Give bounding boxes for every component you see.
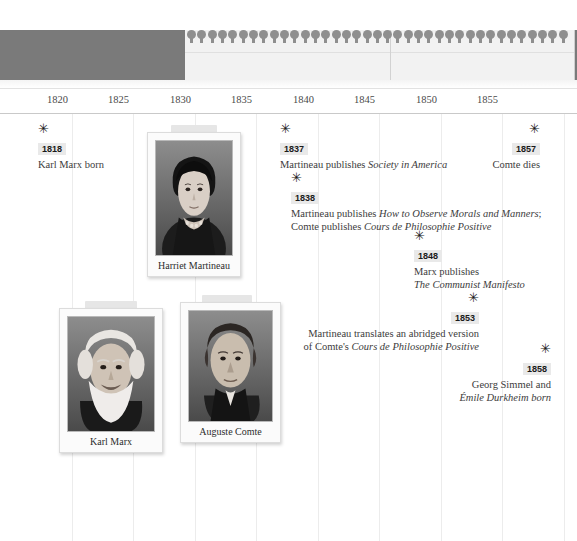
auguste-comte-portrait [188, 310, 273, 422]
event-description: Georg Simmel and [459, 378, 551, 391]
star-asterisk-icon[interactable]: ✳ [304, 291, 479, 304]
map-pin-marker-icon[interactable] [208, 30, 217, 43]
map-pin-marker-icon[interactable] [197, 30, 206, 43]
map-pin-marker-icon[interactable] [414, 30, 423, 43]
event-year-badge: 1837 [280, 143, 308, 155]
karl-marx-portrait [67, 316, 155, 432]
photo-card-body[interactable]: Karl Marx [59, 308, 163, 453]
photo-card-caption: Auguste Comte [188, 422, 273, 442]
map-pin-marker-icon[interactable] [559, 30, 568, 43]
event-year-badge: 1858 [523, 363, 551, 375]
star-asterisk-icon[interactable]: ✳ [492, 122, 540, 135]
gridline [564, 114, 565, 541]
photo-card-caption: Harriet Martineau [155, 256, 233, 276]
axis-tick-label: 1840 [293, 94, 314, 105]
timeline-canvas[interactable]: ✳1818Karl Marx born✳1837Martineau publis… [0, 114, 577, 541]
map-pin-marker-icon[interactable] [466, 30, 475, 43]
event-description: Martineau publishes How to Observe Moral… [291, 207, 542, 220]
event-title-italic: Society in America [368, 159, 447, 170]
map-pin-marker-icon[interactable] [424, 30, 433, 43]
map-pin-marker-icon[interactable] [239, 30, 248, 43]
map-pin-marker-icon[interactable] [301, 30, 310, 43]
map-pin-marker-icon[interactable] [455, 30, 464, 43]
map-pin-marker-icon[interactable] [538, 30, 547, 43]
harriet-martineau-portrait [155, 140, 233, 256]
map-pin-marker-icon[interactable] [548, 30, 557, 43]
event-title-italic: Émile Durkheim born [459, 392, 551, 403]
overview-pin-row [185, 30, 574, 44]
star-asterisk-icon[interactable]: ✳ [459, 342, 551, 355]
axis-tick-label: 1825 [108, 94, 129, 105]
overview-viewport-divider [185, 52, 574, 53]
map-pin-marker-icon[interactable] [517, 30, 526, 43]
axis-tick-label: 1820 [47, 94, 68, 105]
photo-card-body[interactable]: Auguste Comte [180, 302, 281, 443]
axis-tick-label: 1855 [477, 94, 498, 105]
map-pin-marker-icon[interactable] [280, 30, 289, 43]
map-pin-marker-icon[interactable] [342, 30, 351, 43]
overview-viewport-window[interactable] [185, 30, 575, 80]
timeline-event[interactable]: ✳1858Georg Simmel andÉmile Durkheim born [459, 342, 551, 404]
map-pin-marker-icon[interactable] [259, 30, 268, 43]
event-text: Martineau publishes [291, 208, 379, 219]
photo-card-caption: Karl Marx [67, 432, 155, 452]
photo-card-body[interactable]: Harriet Martineau [147, 132, 241, 277]
event-description: Martineau translates an abridged version [304, 327, 479, 340]
star-asterisk-icon[interactable]: ✳ [38, 122, 104, 135]
map-pin-marker-icon[interactable] [228, 30, 237, 43]
map-pin-marker-icon[interactable] [435, 30, 444, 43]
map-pin-marker-icon[interactable] [249, 30, 258, 43]
event-description: Émile Durkheim born [459, 391, 551, 404]
map-pin-marker-icon[interactable] [383, 30, 392, 43]
event-year-badge: 1853 [451, 312, 479, 324]
timeline-overview-navigator[interactable] [0, 0, 577, 88]
map-pin-marker-icon[interactable] [332, 30, 341, 43]
timeline-event[interactable]: ✳1838Martineau publishes How to Observe … [291, 171, 542, 233]
map-pin-marker-icon[interactable] [363, 30, 372, 43]
event-text: Marx publishes [414, 266, 479, 277]
map-pin-marker-icon[interactable] [311, 30, 320, 43]
timeline-axis-ruler[interactable]: 18201825183018351840184518501855 [0, 88, 577, 114]
photo-card[interactable]: Harriet Martineau [147, 125, 241, 275]
event-year-badge: 1848 [414, 250, 442, 262]
map-pin-marker-icon[interactable] [187, 30, 196, 43]
timeline-event[interactable]: ✳1848Marx publishesThe Communist Manifes… [414, 229, 525, 291]
event-description: Marx publishes [414, 265, 525, 278]
timeline-event[interactable]: ✳1857Comte dies [492, 122, 540, 171]
photo-card[interactable]: Auguste Comte [180, 295, 281, 441]
map-pin-marker-icon[interactable] [321, 30, 330, 43]
event-text: Comte dies [492, 159, 540, 170]
map-pin-marker-icon[interactable] [393, 30, 402, 43]
map-pin-marker-icon[interactable] [486, 30, 495, 43]
star-asterisk-icon[interactable]: ✳ [414, 229, 525, 242]
event-year-badge: 1857 [512, 143, 540, 155]
map-pin-marker-icon[interactable] [352, 30, 361, 43]
map-pin-marker-icon[interactable] [476, 30, 485, 43]
map-pin-marker-icon[interactable] [497, 30, 506, 43]
event-text: Martineau translates an abridged version [308, 328, 479, 339]
map-pin-marker-icon[interactable] [404, 30, 413, 43]
timeline-event[interactable]: ✳1818Karl Marx born [38, 122, 104, 171]
map-pin-marker-icon[interactable] [528, 30, 537, 43]
timeline-event[interactable]: ✳1853Martineau translates an abridged ve… [304, 291, 479, 353]
map-pin-marker-icon[interactable] [218, 30, 227, 43]
event-text: ; [539, 208, 542, 219]
event-title-italic: The Communist Manifesto [414, 279, 525, 290]
map-pin-marker-icon[interactable] [507, 30, 516, 43]
axis-tick-label: 1850 [416, 94, 437, 105]
axis-tick-label: 1835 [231, 94, 252, 105]
map-pin-marker-icon[interactable] [445, 30, 454, 43]
event-text: Karl Marx born [38, 159, 104, 170]
event-title-italic: How to Observe Morals and Manners [379, 208, 539, 219]
map-pin-marker-icon[interactable] [373, 30, 382, 43]
event-description: of Comte's Cours de Philosophie Positive [304, 340, 479, 353]
timeline-event[interactable]: ✳1837Martineau publishes Society in Amer… [280, 122, 447, 171]
map-pin-marker-icon[interactable] [290, 30, 299, 43]
map-pin-marker-icon[interactable] [270, 30, 279, 43]
event-text: Georg Simmel and [472, 379, 551, 390]
photo-card[interactable]: Karl Marx [59, 301, 163, 451]
star-asterisk-icon[interactable]: ✳ [291, 171, 542, 184]
star-asterisk-icon[interactable]: ✳ [280, 122, 447, 135]
overview-fade [0, 80, 577, 88]
event-year-badge: 1838 [291, 192, 319, 204]
